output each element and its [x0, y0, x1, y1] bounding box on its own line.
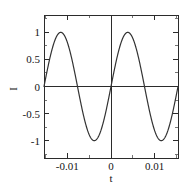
x-axis-tick-labels: -0.0100.01: [56, 160, 164, 172]
x-tick-label-0: -0.01: [56, 160, 79, 172]
x-tick-label-2: 0.01: [145, 160, 164, 172]
y-tick-label-0: -1: [31, 135, 40, 147]
y-tick-label-3: 0.5: [26, 53, 40, 65]
x-tick-label-1: 0: [108, 160, 114, 172]
sine-plot-svg: -0.0100.01 -1-0.500.51 t I: [0, 0, 189, 188]
y-axis-title: I: [7, 87, 19, 91]
chart-figure: -0.0100.01 -1-0.500.51 t I: [0, 0, 189, 188]
y-tick-label-2: 0: [35, 81, 41, 93]
y-tick-label-4: 1: [35, 26, 41, 38]
y-tick-label-1: -0.5: [23, 108, 41, 120]
x-axis-title: t: [109, 172, 112, 184]
